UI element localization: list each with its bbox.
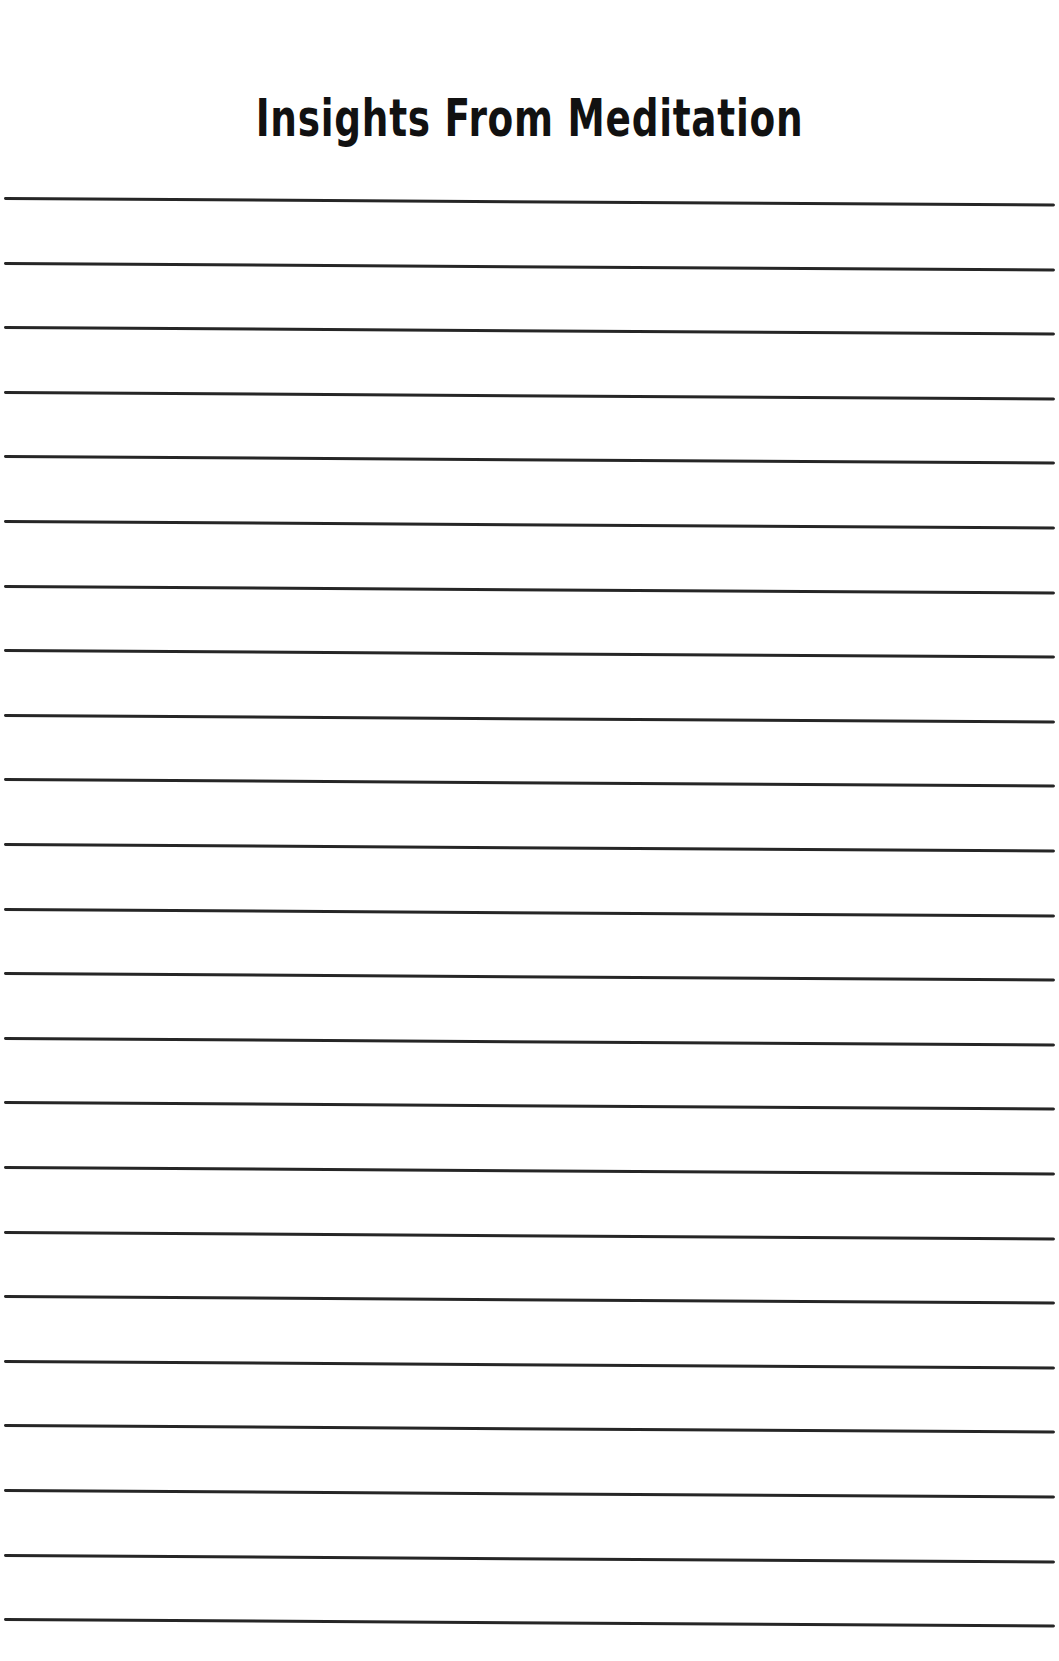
- ruled-line: [4, 1360, 1055, 1369]
- ruled-line: [4, 649, 1055, 658]
- ruled-line: [4, 1231, 1055, 1240]
- ruled-line: [4, 455, 1055, 464]
- ruled-line: [4, 778, 1055, 787]
- ruled-line: [4, 197, 1055, 206]
- ruled-line: [4, 1166, 1055, 1175]
- ruled-line: [4, 1101, 1055, 1110]
- ruled-line: [4, 326, 1055, 335]
- ruled-line: [4, 391, 1055, 400]
- ruled-line: [4, 520, 1055, 529]
- ruled-line: [4, 1037, 1055, 1046]
- journal-page: Insights From Meditation: [0, 0, 1059, 1661]
- ruled-line: [4, 1424, 1055, 1433]
- ruled-line: [4, 262, 1055, 271]
- ruled-line: [4, 908, 1055, 917]
- ruled-line: [4, 1618, 1055, 1627]
- ruled-line: [4, 1554, 1055, 1563]
- ruled-line: [4, 972, 1055, 981]
- ruled-line: [4, 585, 1055, 594]
- ruled-line: [4, 1295, 1055, 1304]
- ruled-line: [4, 714, 1055, 723]
- ruled-line: [4, 843, 1055, 852]
- ruled-lines: [0, 0, 1059, 1661]
- ruled-line: [4, 1489, 1055, 1498]
